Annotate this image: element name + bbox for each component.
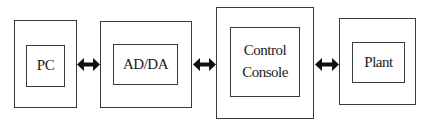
bidirectional-arrow-icon	[77, 57, 100, 72]
control-console-inner-box: Control Console	[230, 27, 300, 97]
pc-label: PC	[37, 55, 54, 77]
pc-inner-box: PC	[26, 45, 65, 87]
adda-inner-box: AD/DA	[113, 44, 178, 85]
adda-label: AD/DA	[123, 54, 168, 76]
control-console-label: Control Console	[242, 40, 288, 84]
plant-inner-box: Plant	[352, 42, 405, 83]
bidirectional-arrow-icon	[193, 57, 216, 72]
plant-label: Plant	[364, 52, 392, 74]
bidirectional-arrow-icon	[315, 57, 339, 72]
